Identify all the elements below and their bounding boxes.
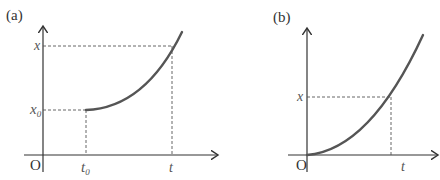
panel-b-label: (b) — [273, 9, 291, 26]
origin-label: O — [296, 157, 307, 173]
position-curve — [307, 35, 423, 155]
panel-a-label: (a) — [6, 7, 23, 24]
panel-a: (a) O x0 x t0 t — [6, 7, 218, 177]
x-label: x — [33, 38, 41, 53]
x0-label: x0 — [29, 101, 42, 119]
t-label: t — [169, 160, 174, 175]
x-label: x — [296, 89, 304, 104]
t0-label: t0 — [81, 159, 90, 177]
position-curve — [86, 32, 182, 110]
panel-b: (b) O x t — [273, 9, 438, 174]
origin-label: O — [30, 157, 41, 173]
t-label: t — [401, 159, 406, 174]
diagram: (a) O x0 x t0 t (b) O x t — [0, 0, 440, 180]
